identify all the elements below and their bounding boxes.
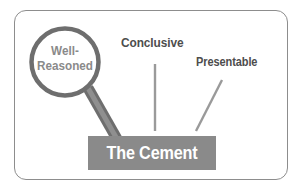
diagram-canvas: Well- Reasoned Conclusive Presentable Th… — [0, 0, 304, 192]
magnifier-handle-icon — [88, 88, 117, 139]
magnifier-label: Well- Reasoned — [37, 44, 93, 73]
magnifier-label-line-1: Well- — [51, 43, 79, 58]
cement-base-bar: The Cement — [88, 136, 216, 170]
label-presentable: Presentable — [196, 56, 257, 69]
cement-base-label: The Cement — [94, 136, 209, 170]
connector-line-presentable — [196, 80, 222, 131]
label-conclusive: Conclusive — [121, 36, 184, 50]
magnifier-label-line-2: Reasoned — [37, 58, 93, 73]
